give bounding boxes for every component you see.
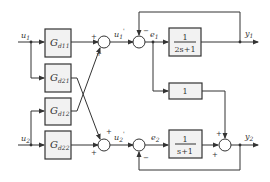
svg-text:+: + <box>106 128 112 136</box>
svg-text:+: + <box>91 33 97 41</box>
sum-junction-u2p: + + <box>91 128 112 157</box>
svg-text:2s+1: 2s+1 <box>175 45 196 54</box>
block-gd22: Gd22 <box>45 131 71 159</box>
output-y2: y2 <box>244 132 254 142</box>
svg-text:+: + <box>91 149 97 157</box>
svg-text:+: + <box>96 50 102 58</box>
svg-text:−: − <box>143 27 149 35</box>
plant-block-g11: 1 2s+1 <box>169 28 201 56</box>
svg-text:s+1: s+1 <box>177 147 193 156</box>
svg-text:u2: u2 <box>21 134 30 144</box>
svg-text:+: + <box>216 130 222 138</box>
error-junction-e1: − <box>133 27 149 48</box>
svg-text:−: − <box>143 154 149 162</box>
block-gd12: Gd12 <box>45 98 71 125</box>
block-gd11: Gd11 <box>45 29 71 57</box>
input-u1: u1 <box>18 31 44 78</box>
plant-block-g22: 1 s+1 <box>169 130 202 158</box>
signal-e2: e2 <box>151 133 160 143</box>
svg-text:1: 1 <box>182 135 187 144</box>
error-junction-e2: − <box>133 139 149 162</box>
input-u2: u2 <box>18 111 44 146</box>
signal-e1: e1 <box>150 30 159 40</box>
svg-text:+: + <box>212 151 218 159</box>
block-diagram: u1 u2 Gd11 Gd21 Gd12 Gd22 + + + + <box>0 0 270 182</box>
block-gd21: Gd21 <box>45 64 71 92</box>
svg-text:u1: u1 <box>21 31 30 41</box>
svg-text:1: 1 <box>182 87 187 96</box>
sum-junction-u1p: + + <box>91 33 110 58</box>
svg-text:1: 1 <box>182 33 187 42</box>
output-y1: y1 <box>244 29 253 39</box>
plant-block-g21: 1 <box>169 83 202 99</box>
signal-u1-prime: u1' <box>114 27 125 40</box>
signal-u2-prime: u2' <box>114 130 125 143</box>
